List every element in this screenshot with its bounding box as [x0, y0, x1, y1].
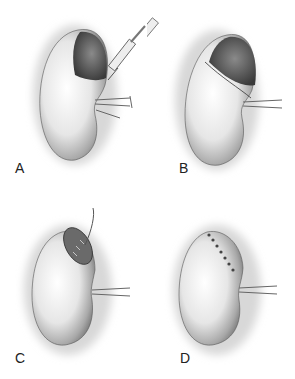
panel-label-b: B — [179, 160, 188, 176]
panel-label-d: D — [180, 350, 190, 366]
panel-label-a: A — [15, 160, 24, 176]
panel-d: D — [147, 190, 294, 379]
panel-label-c: C — [15, 350, 25, 366]
panel-c: C — [0, 190, 147, 379]
panel-a: A — [0, 0, 147, 189]
syringe-icon — [147, 18, 158, 40]
panel-b: B — [147, 0, 294, 189]
